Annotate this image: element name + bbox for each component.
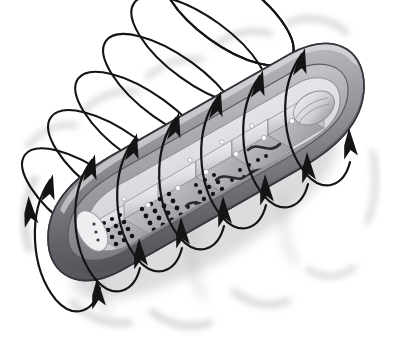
figure-root: Cutaway three-quarter view of a mitochon… <box>0 0 394 346</box>
smudge-top-left <box>82 91 140 112</box>
smudge-upper-left <box>26 125 78 148</box>
smudge-top-mid <box>146 59 204 78</box>
smudge-bottom-mid <box>150 310 212 326</box>
smudge-bottom-right <box>232 290 290 305</box>
smudge-right-outer <box>366 150 375 224</box>
mitochondrion-field-diagram <box>0 0 394 346</box>
smudge-top-right <box>286 19 348 34</box>
smudge-right-lower <box>306 266 356 276</box>
